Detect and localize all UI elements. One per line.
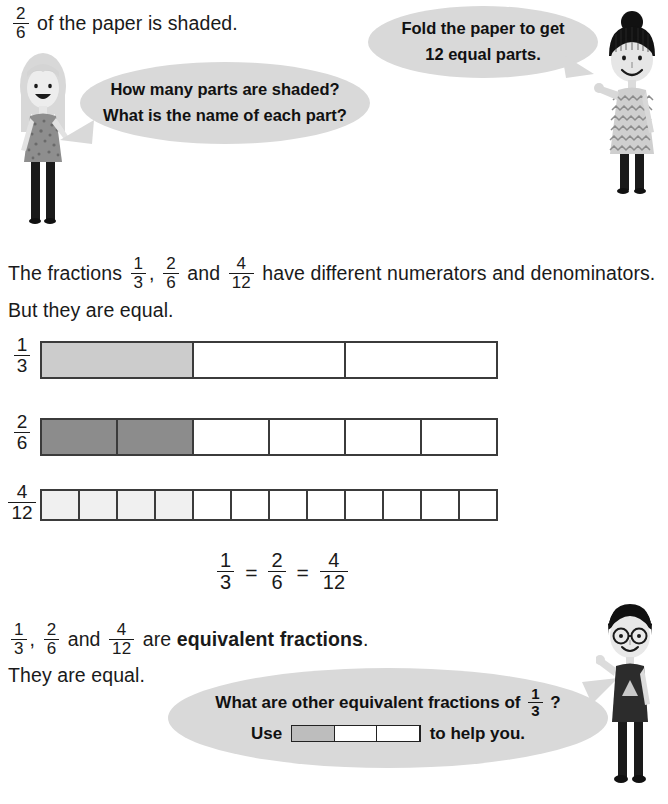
equation-fraction-b: 2 6 — [268, 550, 285, 593]
bar-label-four-twelfths-fraction: 4 12 — [8, 482, 35, 523]
bar-cell-shaded — [80, 491, 118, 519]
bubble-boy-fraction: 1 3 — [528, 686, 542, 719]
bar-cell-empty — [422, 420, 496, 454]
paragraph-1-fraction-b: 2 6 — [163, 255, 179, 292]
conclusion-term: equivalent fractions — [177, 628, 363, 650]
intro-text: of the paper is shaded. — [37, 12, 238, 34]
eq-c-denominator: 12 — [320, 571, 348, 593]
frac-c-numerator: 4 — [229, 255, 254, 273]
eq-b-denominator: 6 — [268, 571, 285, 593]
conclusion-period: . — [363, 628, 369, 650]
conclusion-are: are — [143, 628, 171, 650]
bubble-boy-line2-before: Use — [251, 724, 282, 743]
bar-3-denominator: 12 — [8, 502, 35, 523]
paragraph-1-line-1: The fractions 1 3 , 2 6 and 4 12 have di… — [8, 256, 655, 293]
bar-label-two-sixths-fraction: 2 6 — [14, 412, 31, 453]
conclusion-and: and — [68, 628, 101, 650]
conclusion-fraction-b: 2 6 — [44, 621, 60, 658]
bubble-girl-tail — [58, 118, 94, 150]
bubble-boy-question: What are other equivalent fractions of 1… — [168, 668, 608, 768]
bar-cell-empty — [270, 420, 346, 454]
bar-two-sixths-track — [40, 418, 498, 456]
frac-c-denominator: 12 — [229, 273, 254, 292]
bubble-teacher-line1: Fold the paper to get — [401, 16, 564, 42]
bar-cell-empty — [460, 491, 496, 519]
bar-cell-shaded — [156, 491, 194, 519]
con-a-denominator: 3 — [11, 639, 27, 658]
paragraph-1-fraction-a: 1 3 — [131, 255, 147, 292]
bar-cell-shaded — [42, 343, 194, 377]
bar-1-denominator: 3 — [14, 355, 31, 376]
conclusion-fraction-a: 1 3 — [11, 621, 27, 658]
bubble-teacher-line2: 12 equal parts. — [425, 42, 541, 68]
bar-cell-empty — [346, 491, 384, 519]
con-a-numerator: 1 — [11, 621, 27, 639]
fraction-bar-one-third — [40, 341, 498, 379]
bar-cell-empty — [194, 343, 346, 377]
boy-figure-svg — [596, 600, 664, 790]
bar-3-numerator: 4 — [8, 482, 35, 502]
bubble-boy-question-mark: ? — [550, 693, 560, 712]
bar-four-twelfths-track — [40, 489, 498, 521]
bar-label-four-twelfths: 4 12 — [4, 483, 40, 524]
bubble-girl-line1: How many parts are shaded? — [110, 77, 339, 103]
bubble-boy-line1: What are other equivalent fractions of 1… — [215, 687, 560, 720]
paragraph-1-comma: , — [149, 262, 155, 284]
bar-label-one-third: 1 3 — [8, 336, 36, 377]
eq-a-denominator: 3 — [217, 571, 234, 593]
paragraph-1-line-2: But they are equal. — [8, 299, 174, 322]
bar-cell-empty — [194, 420, 270, 454]
bubble-boy-line1-text: What are other equivalent fractions of — [215, 693, 520, 712]
bubble-boy-frac-denominator: 3 — [528, 702, 542, 719]
intro-fraction: 2 6 — [13, 5, 29, 42]
fraction-bar-four-twelfths — [40, 489, 498, 521]
bar-cell-shaded — [42, 491, 80, 519]
bubble-girl-line2: What is the name of each part? — [103, 103, 347, 129]
frac-a-denominator: 3 — [131, 273, 147, 292]
eq-c-numerator: 4 — [320, 550, 348, 571]
bar-cell-shaded — [118, 420, 194, 454]
bubble-boy-line2: Use to help you. — [251, 720, 525, 749]
bubble-girl-question: How many parts are shaded? What is the n… — [80, 62, 370, 144]
frac-a-numerator: 1 — [131, 255, 147, 273]
con-b-denominator: 6 — [44, 639, 60, 658]
intro-fraction-denominator: 6 — [13, 23, 29, 42]
bar-cell-empty — [232, 491, 270, 519]
equation-fraction-a: 1 3 — [217, 550, 234, 593]
bar-cell-empty — [422, 491, 460, 519]
eq-a-numerator: 1 — [217, 550, 234, 571]
bar-cell-shaded — [118, 491, 156, 519]
worksheet-page: 2 6 of the paper is shaded. — [0, 0, 668, 804]
con-b-numerator: 2 — [44, 621, 60, 639]
bubble-boy-frac-numerator: 1 — [528, 686, 542, 702]
conclusion-comma: , — [30, 628, 36, 650]
paragraph-1-part2: and — [187, 262, 220, 284]
conclusion-line-2: They are equal. — [8, 664, 145, 687]
bar-cell-shaded — [42, 420, 118, 454]
fraction-bar-two-sixths — [40, 418, 498, 456]
equation-sign-2: = — [295, 561, 311, 585]
intro-fraction-numerator: 2 — [13, 5, 29, 23]
boy-glasses-character — [596, 600, 664, 790]
mini-bar-cell-empty — [335, 726, 378, 741]
bar-cell-empty — [194, 491, 232, 519]
bar-label-one-third-fraction: 1 3 — [14, 335, 31, 376]
eq-b-numerator: 2 — [268, 550, 285, 571]
bar-cell-empty — [346, 343, 496, 377]
frac-b-numerator: 2 — [163, 255, 179, 273]
woman-teacher-character — [592, 8, 664, 198]
bubble-mini-fraction-bar — [291, 725, 421, 742]
equation-sign-1: = — [243, 561, 259, 585]
bar-cell-empty — [384, 491, 422, 519]
bar-cell-empty — [270, 491, 308, 519]
bar-cell-empty — [346, 420, 422, 454]
conclusion-line-1: 1 3 , 2 6 and 4 12 are equivalent fracti… — [8, 622, 369, 659]
equivalence-equation: 1 3 = 2 6 = 4 12 — [214, 551, 351, 594]
bar-cell-empty — [308, 491, 346, 519]
paragraph-1-part3: have different numerators and denominato… — [262, 262, 655, 284]
paragraph-1-fraction-c: 4 12 — [229, 255, 254, 292]
equation-fraction-c: 4 12 — [320, 550, 348, 593]
bar-one-third-track — [40, 341, 498, 379]
teacher-figure-svg — [592, 8, 664, 198]
paragraph-1-part1: The fractions — [8, 262, 122, 284]
